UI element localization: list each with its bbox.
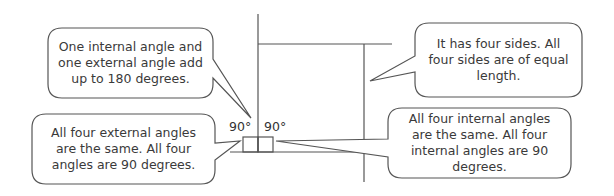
callout-text-external-angles: All four external angles are the same. A… [32, 114, 215, 184]
internal-right-angle-marker [258, 137, 273, 152]
callout-text-angle-sum: One internal angle and one external angl… [48, 28, 213, 98]
callout-text-internal-angles: All four internal angles are the same. A… [388, 108, 571, 178]
callout-text-sides: It has four sides. All four sides are of… [415, 23, 582, 97]
internal-angle-label: 90° [264, 120, 286, 134]
external-angle-label: 90° [229, 120, 251, 134]
square-figure [230, 14, 392, 182]
external-right-angle-marker [243, 137, 258, 152]
